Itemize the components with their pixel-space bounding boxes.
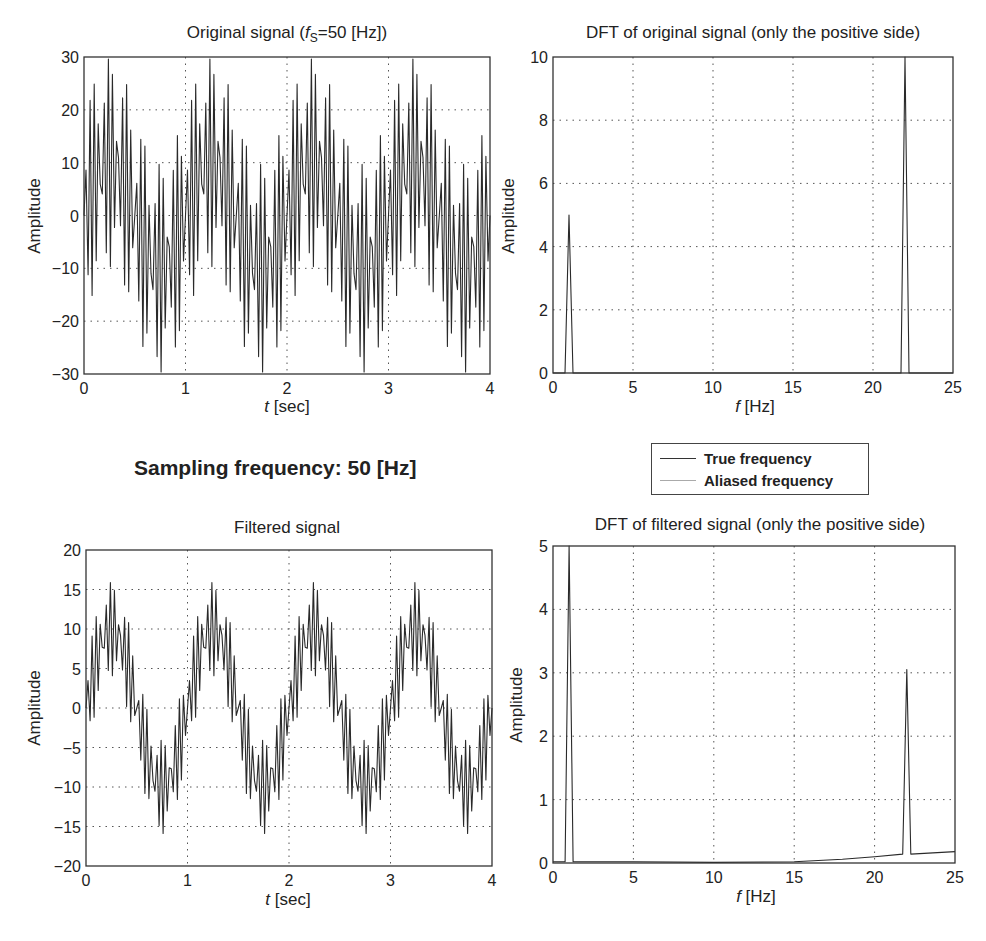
sampling-frequency-heading: Sampling frequency: 50 [Hz]	[134, 456, 416, 480]
y-tick-label: 30	[61, 49, 79, 66]
legend: True frequency Aliased frequency	[651, 443, 869, 495]
x-tick-label: 5	[629, 379, 638, 396]
x-tick-label: 4	[486, 380, 495, 397]
axes-frame	[553, 546, 955, 863]
y-tick-label: −20	[52, 313, 79, 330]
y-tick-label: 20	[61, 102, 79, 119]
plot-title: Original signal (fS=50 [Hz])	[187, 23, 387, 45]
x-tick-label: 25	[946, 869, 964, 886]
axes-frame	[553, 57, 953, 373]
legend-label: Aliased frequency	[704, 472, 833, 489]
x-axis-label: t [sec]	[264, 397, 309, 416]
y-tick-label: 8	[539, 112, 548, 129]
plot-title: Filtered signal	[234, 518, 340, 537]
y-tick-label: 5	[539, 538, 548, 555]
y-tick-label: −10	[52, 260, 79, 277]
x-tick-label: 3	[386, 872, 395, 889]
x-tick-label: 0	[80, 380, 89, 397]
dft-original-plot: DFT of original signal (only the positiv…	[499, 23, 962, 416]
y-tick-label: −30	[52, 366, 79, 383]
y-tick-label: −5	[63, 740, 81, 757]
y-tick-label: 10	[530, 49, 548, 66]
x-tick-label: 15	[785, 869, 803, 886]
y-axis-label: Amplitude	[499, 178, 518, 254]
plot-title: DFT of original signal (only the positiv…	[586, 23, 920, 42]
x-tick-label: 20	[864, 379, 882, 396]
y-axis-label: Amplitude	[25, 670, 44, 746]
y-axis-label: Amplitude	[507, 667, 526, 743]
y-axis-label: Amplitude	[25, 178, 44, 254]
x-tick-label: 15	[784, 379, 802, 396]
x-tick-label: 1	[183, 872, 192, 889]
y-tick-label: 1	[539, 792, 548, 809]
y-tick-label: 15	[63, 582, 81, 599]
x-tick-label: 4	[488, 872, 497, 889]
x-tick-label: 10	[704, 379, 722, 396]
y-tick-label: −20	[54, 858, 81, 875]
x-axis-label: t [sec]	[265, 890, 310, 909]
y-tick-label: 2	[539, 728, 548, 745]
x-tick-label: 0	[82, 872, 91, 889]
legend-label: True frequency	[704, 450, 812, 467]
y-tick-label: 0	[72, 700, 81, 717]
y-tick-label: 2	[539, 302, 548, 319]
x-tick-label: 25	[944, 379, 962, 396]
x-tick-label: 1	[181, 380, 190, 397]
x-axis-label: f [Hz]	[736, 887, 776, 906]
y-tick-label: 3	[539, 665, 548, 682]
x-tick-label: 0	[549, 379, 558, 396]
legend-swatch-aliased	[660, 480, 696, 481]
filtered-signal-plot: Filtered signal 01234−20−15−10−505101520…	[25, 518, 497, 909]
y-tick-label: 4	[539, 239, 548, 256]
legend-item-aliased-frequency: Aliased frequency	[660, 469, 860, 491]
y-tick-label: 0	[70, 208, 79, 225]
y-tick-label: 5	[72, 661, 81, 678]
x-tick-label: 20	[866, 869, 884, 886]
legend-swatch-true	[660, 458, 696, 459]
y-tick-label: 0	[539, 855, 548, 872]
x-tick-label: 10	[705, 869, 723, 886]
x-tick-label: 0	[549, 869, 558, 886]
spectrum-curve	[553, 57, 953, 373]
x-axis-label: f [Hz]	[735, 397, 775, 416]
y-tick-label: 10	[61, 155, 79, 172]
plot-title: DFT of filtered signal (only the positiv…	[595, 515, 925, 534]
y-tick-label: 0	[539, 365, 548, 382]
x-tick-label: 2	[283, 380, 292, 397]
x-tick-label: 3	[384, 380, 393, 397]
y-tick-label: 20	[63, 542, 81, 559]
original-signal-plot: Original signal (fS=50 [Hz]) 01234−30−20…	[25, 23, 495, 416]
y-tick-label: 10	[63, 621, 81, 638]
y-tick-label: −15	[54, 819, 81, 836]
dft-filtered-plot: DFT of filtered signal (only the positiv…	[507, 515, 964, 906]
spectrum-curve	[553, 546, 955, 862]
y-tick-label: −10	[54, 779, 81, 796]
legend-item-true-frequency: True frequency	[660, 447, 860, 469]
x-tick-label: 2	[285, 872, 294, 889]
y-tick-label: 6	[539, 175, 548, 192]
y-tick-label: 4	[539, 601, 548, 618]
x-tick-label: 5	[629, 869, 638, 886]
